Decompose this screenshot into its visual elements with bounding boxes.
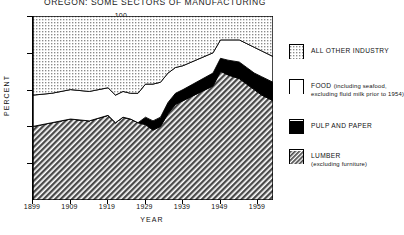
x-tick-mark <box>107 200 108 204</box>
legend-swatch-white <box>289 79 304 94</box>
legend-item: ALL OTHER INDUSTRY <box>289 44 389 59</box>
x-tick-mark <box>220 200 221 204</box>
legend-label: FOOD (including seafood,excluding fluid … <box>311 79 404 99</box>
legend-label: ALL OTHER INDUSTRY <box>311 44 389 55</box>
x-tick-label: 1909 <box>55 203 85 210</box>
legend-swatch-solid-black <box>289 119 304 134</box>
x-tick-mark <box>145 200 146 204</box>
x-axis-label: YEAR <box>0 216 304 223</box>
x-tick-mark <box>32 200 33 204</box>
x-tick-label: 1939 <box>167 203 197 210</box>
x-tick-label: 1929 <box>130 203 160 210</box>
legend-item: PULP AND PAPER <box>289 119 372 134</box>
plot-area <box>32 16 272 200</box>
x-tick-label: 1899 <box>17 203 47 210</box>
x-tick-label: 1959 <box>242 203 272 210</box>
legend-swatch-light-dotted <box>289 44 304 59</box>
y-axis-label: PERCENT <box>3 75 10 116</box>
x-tick-label: 1919 <box>92 203 122 210</box>
legend-swatch-dark-hatch <box>289 149 304 164</box>
x-tick-label: 1949 <box>205 203 235 210</box>
legend-label: LUMBER(excluding furniture) <box>311 149 367 169</box>
chart-title: OREGON: SOME SECTORS OF MANUFACTURING <box>44 0 266 7</box>
x-tick-mark <box>70 200 71 204</box>
legend-item: LUMBER(excluding furniture) <box>289 149 367 169</box>
legend-item: FOOD (including seafood,excluding fluid … <box>289 79 404 99</box>
stacked-area-svg <box>33 16 273 200</box>
legend-label: PULP AND PAPER <box>311 119 372 130</box>
x-tick-mark <box>182 200 183 204</box>
x-tick-mark <box>257 200 258 204</box>
